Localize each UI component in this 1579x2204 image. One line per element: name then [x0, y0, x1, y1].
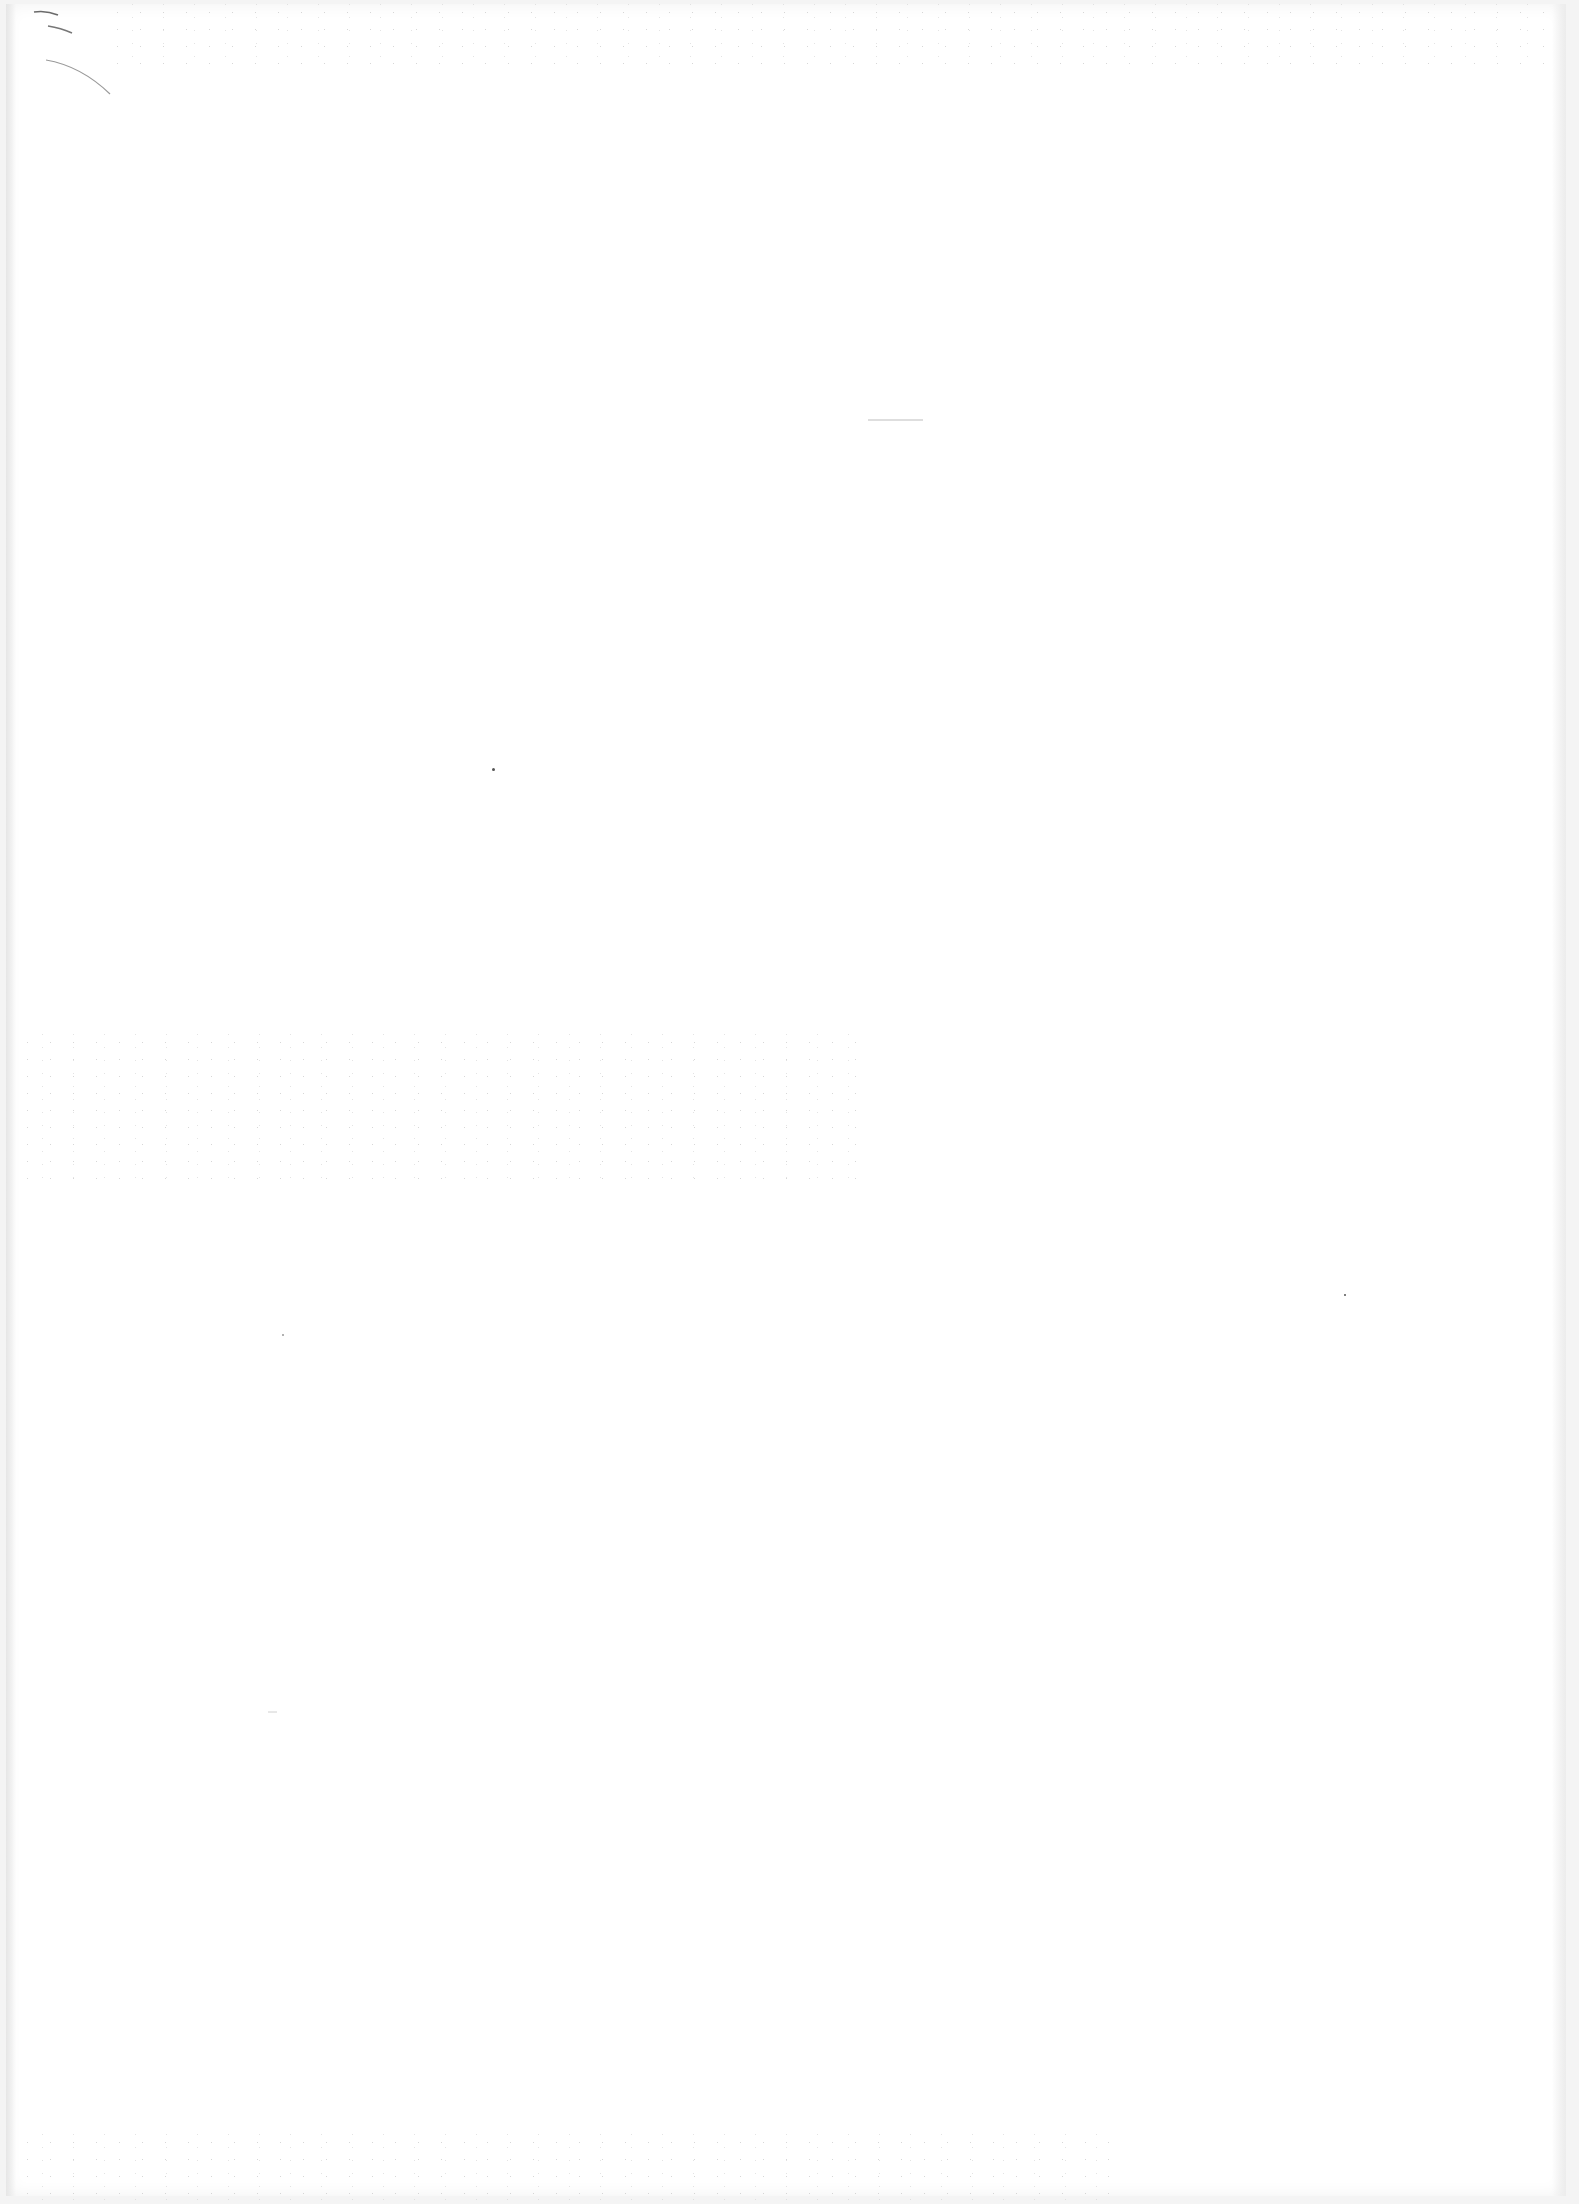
- speck: [1344, 1294, 1346, 1296]
- pen-stroke-1: [34, 11, 58, 15]
- pen-stroke-2: [48, 26, 72, 33]
- pen-stroke-3: [46, 60, 110, 94]
- speck: [492, 768, 495, 771]
- scanned-page: [6, 4, 1566, 2196]
- pen-marks: [6, 4, 1579, 2204]
- speck: [282, 1334, 284, 1336]
